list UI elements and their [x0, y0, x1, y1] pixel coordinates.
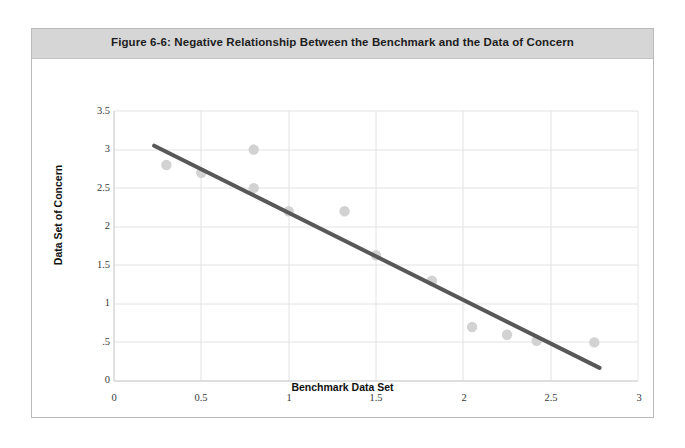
- y-tick-label: 3.5: [76, 105, 110, 116]
- y-tick-label: 0: [76, 374, 110, 385]
- x-tick-label: 2.5: [531, 392, 571, 403]
- data-points: [161, 144, 599, 347]
- x-tick-label: 0: [94, 392, 134, 403]
- y-tick-label: 3: [76, 143, 110, 154]
- plot-area: Data Set of Concern Benchmark Data Set 3…: [32, 59, 653, 417]
- x-tick-label: 1: [269, 392, 309, 403]
- scatter-chart: [32, 59, 653, 417]
- data-point: [502, 330, 512, 340]
- y-tick-label: 2: [76, 220, 110, 231]
- y-tick-label: 1.5: [76, 259, 110, 270]
- y-tick-label: .5: [76, 336, 110, 347]
- data-point: [339, 206, 349, 216]
- y-tick-label: 2.5: [76, 182, 110, 193]
- figure-container: Figure 6-6: Negative Relationship Betwee…: [31, 28, 654, 418]
- data-point: [161, 160, 171, 170]
- x-tick-label: 2: [444, 392, 484, 403]
- grid-lines: [114, 111, 638, 381]
- data-point: [589, 337, 599, 347]
- x-tick-label: 3: [619, 392, 659, 403]
- data-point: [467, 322, 477, 332]
- trend-line: [154, 146, 599, 368]
- y-tick-label: 1: [76, 297, 110, 308]
- figure-title: Figure 6-6: Negative Relationship Betwee…: [32, 36, 653, 48]
- x-tick-label: 1.5: [356, 392, 396, 403]
- data-point: [249, 144, 259, 154]
- y-axis-title: Data Set of Concern: [52, 125, 64, 305]
- figure-title-bar: Figure 6-6: Negative Relationship Betwee…: [32, 29, 653, 59]
- x-tick-label: 0.5: [181, 392, 221, 403]
